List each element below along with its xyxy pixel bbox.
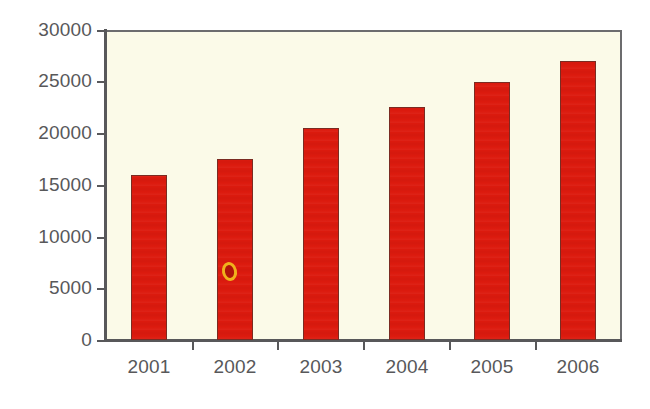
bar-2005 <box>474 82 510 340</box>
bar-2004 <box>389 107 425 340</box>
y-axis-tick-label: 15000 <box>6 175 92 194</box>
y-axis-tick-label: 20000 <box>6 123 92 142</box>
bar-2002 <box>217 159 253 340</box>
y-axis-tick <box>97 340 106 342</box>
y-axis-tick <box>97 133 106 135</box>
x-axis-tick <box>363 340 365 350</box>
y-axis-tick-label: 30000 <box>6 20 92 39</box>
y-axis-tick <box>97 185 106 187</box>
bar-2001 <box>131 175 167 340</box>
y-axis-tick-label: 25000 <box>6 71 92 90</box>
x-axis-tick-label-2005: 2005 <box>447 356 537 378</box>
x-axis-tick-label-2006: 2006 <box>533 356 623 378</box>
y-axis-tick-label: 10000 <box>6 227 92 246</box>
x-axis-tick-label-2004: 2004 <box>362 356 452 378</box>
y-axis-tick-label: 5000 <box>6 278 92 297</box>
x-axis-tick-label-2001: 2001 <box>104 356 194 378</box>
y-axis-tick <box>97 237 106 239</box>
x-axis-tick <box>535 340 537 350</box>
plot-area <box>105 30 622 342</box>
chart-figure: 30000 25000 20000 15000 10000 5000 0 200… <box>0 0 650 409</box>
y-axis-tick <box>97 288 106 290</box>
y-axis-tick <box>97 81 106 83</box>
x-axis-tick-label-2003: 2003 <box>276 356 366 378</box>
x-axis-tick <box>192 340 194 350</box>
x-axis-tick <box>449 340 451 350</box>
x-axis-tick-label-2002: 2002 <box>190 356 280 378</box>
x-axis-tick <box>277 340 279 350</box>
y-axis-tick <box>97 30 106 32</box>
bar-2006 <box>560 61 596 340</box>
bar-2003 <box>303 128 339 340</box>
y-axis-tick-label: 0 <box>6 330 92 349</box>
